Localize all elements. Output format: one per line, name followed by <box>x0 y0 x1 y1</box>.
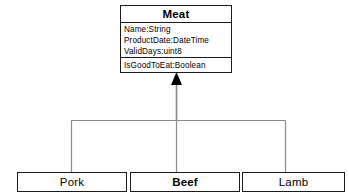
operations-compartment: IsGoodToEat:Boolean <box>121 58 231 71</box>
class-name-pork: Pork <box>18 173 126 191</box>
attributes-compartment: Name:String ProductDate:DateTime ValidDa… <box>121 23 231 58</box>
uml-class-diagram: Meat Name:String ProductDate:DateTime Va… <box>0 0 349 196</box>
attribute-row: Name:String <box>124 24 231 35</box>
class-box-pork[interactable]: Pork <box>17 172 127 192</box>
operation-row: IsGoodToEat:Boolean <box>124 60 231 71</box>
class-name-lamb: Lamb <box>243 173 344 191</box>
class-box-lamb[interactable]: Lamb <box>242 172 345 192</box>
generalization-arrowhead <box>171 72 182 85</box>
attribute-row: ValidDays:uint8 <box>124 46 231 57</box>
attribute-row: ProductDate:DateTime <box>124 35 231 46</box>
class-name-meat: Meat <box>121 6 231 23</box>
class-name-beef: Beef <box>131 173 239 191</box>
class-box-meat[interactable]: Meat Name:String ProductDate:DateTime Va… <box>120 5 232 73</box>
class-box-beef[interactable]: Beef <box>130 172 240 192</box>
